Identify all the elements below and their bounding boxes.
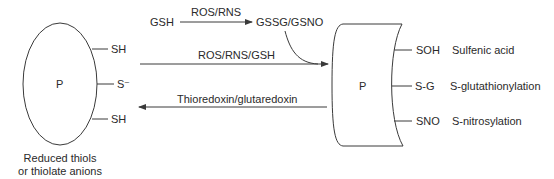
reactant-gsh: GSH — [150, 16, 174, 28]
reduced-caption-line1: Reduced thiols — [0, 152, 120, 165]
arrow-label-ros-rns: ROS/RNS — [191, 6, 241, 18]
name-sulfenic-acid: Sulfenic acid — [452, 44, 514, 56]
group-thiolate: S⁻ — [117, 78, 130, 90]
reduced-caption-line2: or thiolate anions — [0, 165, 120, 178]
arrow-gssg-curve — [285, 31, 318, 64]
forward-arrow-label: ROS/RNS/GSH — [198, 49, 275, 61]
group-sg: S-G — [415, 80, 435, 92]
group-sh-top: SH — [111, 43, 126, 55]
reduced-protein-label: P — [56, 78, 63, 90]
oxidized-protein-shape — [332, 24, 403, 146]
oxidized-protein-label: P — [359, 80, 366, 92]
group-sh-bottom: SH — [111, 113, 126, 125]
reverse-arrow-label: Thioredoxin/glutaredoxin — [177, 93, 297, 105]
name-s-nitrosylation: S-nitrosylation — [452, 115, 522, 127]
product-gssg-gsno: GSSG/GSNO — [256, 16, 323, 28]
group-sno: SNO — [416, 115, 440, 127]
group-soh: SOH — [416, 44, 440, 56]
name-s-glutathionylation: S-glutathionylation — [450, 80, 541, 92]
